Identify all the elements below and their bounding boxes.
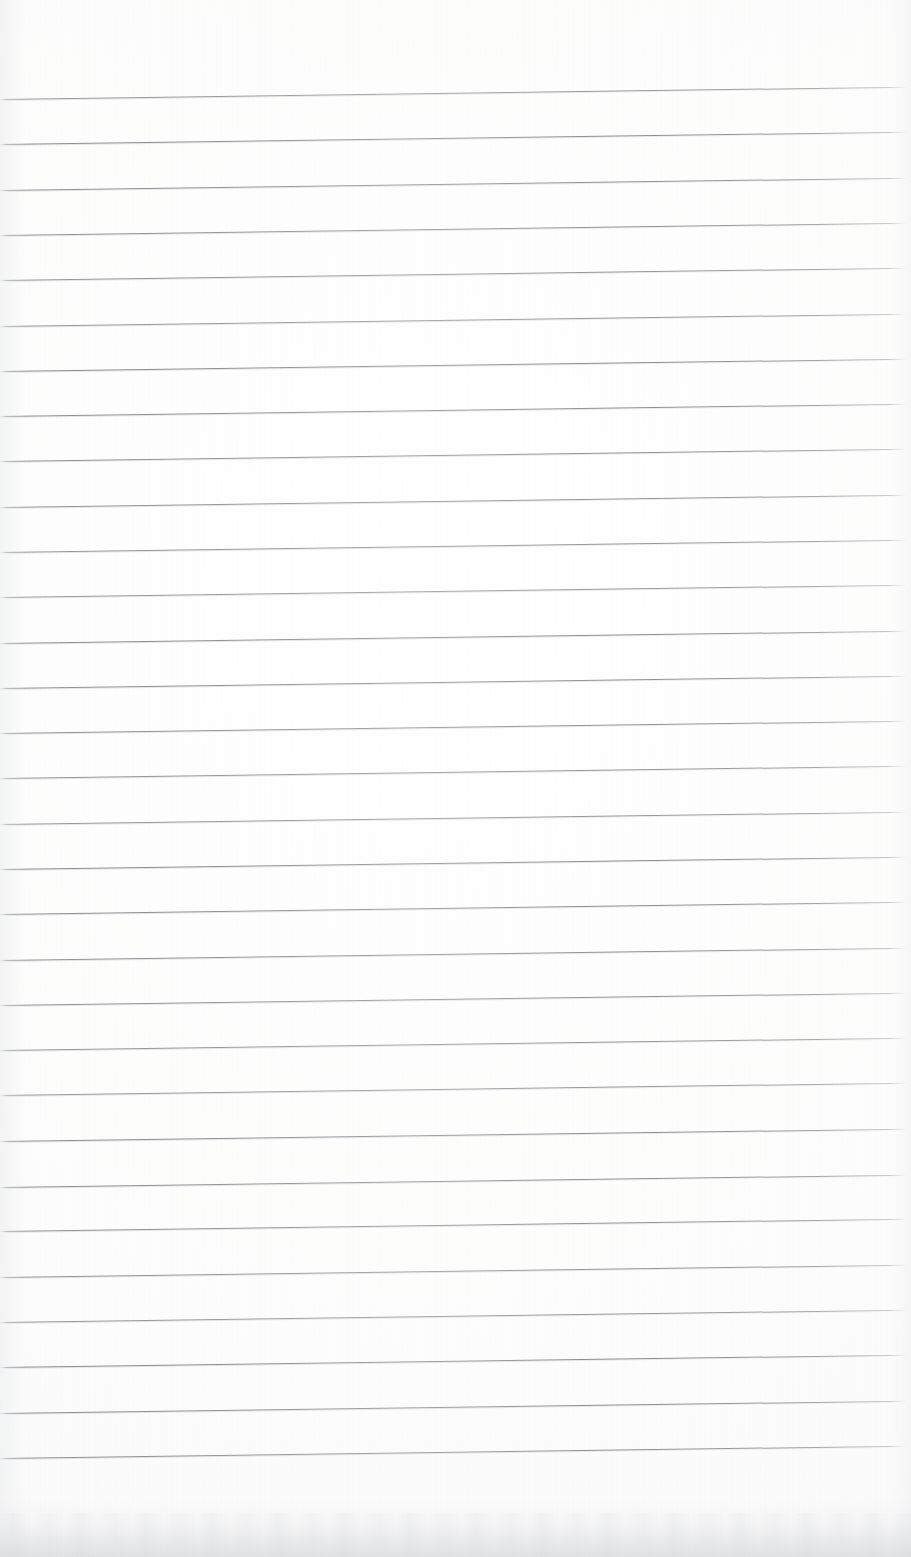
rule-line xyxy=(0,1446,906,1459)
rule-line xyxy=(0,1400,906,1413)
rule-line xyxy=(0,1355,906,1368)
rule-line xyxy=(0,1310,906,1323)
rule-line xyxy=(0,540,906,553)
rule-line xyxy=(0,902,906,915)
rule-line xyxy=(0,313,906,326)
rule-line xyxy=(0,1129,906,1142)
rule-line xyxy=(0,585,906,598)
rule-line xyxy=(0,1038,906,1051)
rule-line xyxy=(0,766,906,779)
rule-line xyxy=(0,177,906,190)
rule-line xyxy=(0,268,906,281)
rule-line xyxy=(0,1083,906,1096)
rule-line xyxy=(0,857,906,870)
rule-line xyxy=(0,1174,906,1187)
rule-line xyxy=(0,359,906,372)
rule-line xyxy=(0,947,906,960)
ruled-lines-group xyxy=(0,0,911,1557)
scanned-notebook-page xyxy=(0,0,911,1557)
rule-line xyxy=(0,223,906,236)
rule-line xyxy=(0,132,906,145)
rule-line xyxy=(0,676,906,689)
rule-line xyxy=(0,1264,906,1277)
rule-line xyxy=(0,403,906,416)
rule-line xyxy=(0,86,906,99)
rule-line xyxy=(0,630,906,643)
rule-line xyxy=(0,720,906,733)
rule-line xyxy=(0,812,906,825)
rule-line xyxy=(0,1219,906,1232)
rule-line xyxy=(0,494,906,507)
rule-line xyxy=(0,449,906,462)
rule-line xyxy=(0,993,906,1006)
